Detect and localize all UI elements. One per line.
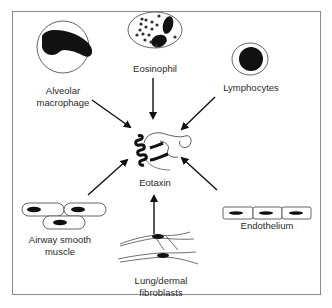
smooth-muscle-cells-icon bbox=[22, 203, 106, 229]
arrow-endothelium-to-eotaxin bbox=[182, 158, 217, 190]
endothelium-cells-icon bbox=[223, 207, 311, 219]
edge-arrows bbox=[88, 78, 217, 234]
lymphocyte-cell-icon bbox=[232, 43, 268, 75]
label-line: macrophage bbox=[30, 97, 96, 109]
macrophage-cell-icon bbox=[37, 21, 92, 73]
label-eosinophil: Eosinophil bbox=[125, 63, 185, 75]
label-line: fibroblasts bbox=[126, 287, 196, 299]
eosinophil-cell-icon bbox=[128, 12, 182, 49]
protein-structure-icon bbox=[136, 133, 191, 170]
label-line: Lymphocytes bbox=[218, 82, 284, 94]
label-line: Lung/dermal bbox=[126, 275, 196, 287]
arrow-lymphocytes-to-eotaxin bbox=[182, 97, 215, 129]
label-eotaxin: Eotaxin bbox=[130, 177, 180, 189]
arrow-macrophage-to-eotaxin bbox=[92, 100, 130, 127]
label-lymphocytes: Lymphocytes bbox=[218, 82, 284, 94]
label-line: Alveolar bbox=[30, 85, 96, 97]
fibroblasts-icon bbox=[118, 232, 198, 264]
label-airway-smooth-muscle: Airway smooth muscle bbox=[18, 234, 102, 257]
label-line: Eosinophil bbox=[125, 63, 185, 75]
arrow-smooth-muscle-to-eotaxin bbox=[88, 160, 127, 195]
label-endothelium: Endothelium bbox=[234, 220, 300, 232]
label-line: Eotaxin bbox=[130, 177, 180, 189]
label-line: muscle bbox=[18, 246, 102, 258]
label-line: Endothelium bbox=[234, 220, 300, 232]
diagram-canvas bbox=[0, 0, 332, 308]
label-alveolar-macrophage: Alveolar macrophage bbox=[30, 85, 96, 108]
label-lung-dermal-fibroblasts: Lung/dermal fibroblasts bbox=[126, 275, 196, 298]
label-line: Airway smooth bbox=[18, 234, 102, 246]
